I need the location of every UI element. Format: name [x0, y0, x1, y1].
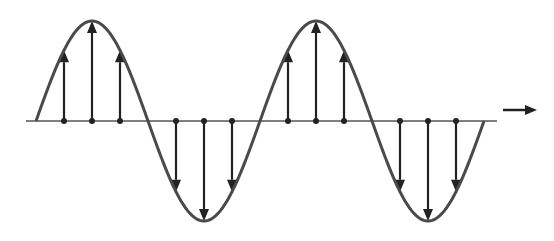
particle-dot — [285, 118, 291, 124]
particle-dot — [89, 118, 95, 124]
particle-dot — [201, 118, 207, 124]
particle-dot — [117, 118, 123, 124]
particle-dot — [313, 118, 319, 124]
particle-dot — [453, 118, 459, 124]
particle-dot — [425, 118, 431, 124]
particle-dot — [229, 118, 235, 124]
particle-dot — [173, 118, 179, 124]
particle-dot — [61, 118, 67, 124]
particle-dot — [397, 118, 403, 124]
wave-diagram — [0, 0, 554, 241]
wave-canvas — [0, 0, 554, 241]
particle-dot — [341, 118, 347, 124]
propagation-arrowhead-icon — [525, 105, 537, 115]
